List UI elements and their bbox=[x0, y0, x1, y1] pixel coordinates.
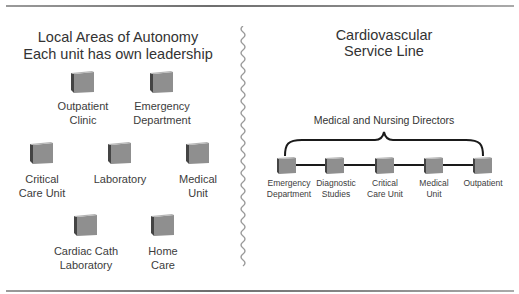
cube-icon bbox=[472, 156, 494, 175]
service-unit-label-critical-care-unit: CriticalCare Unit bbox=[367, 178, 403, 200]
cube-icon bbox=[185, 141, 211, 165]
bottom-border-line bbox=[6, 290, 514, 292]
right-title-line2: Service Line bbox=[344, 43, 424, 60]
unit-label-medical-unit: MedicalUnit bbox=[179, 172, 217, 200]
cube-icon bbox=[149, 70, 175, 94]
cube-icon bbox=[374, 156, 396, 175]
unit-label-emergency-department: EmergencyDepartment bbox=[133, 99, 190, 127]
unit-label-laboratory: Laboratory bbox=[94, 172, 147, 186]
cube-icon bbox=[70, 70, 96, 94]
cube-icon bbox=[423, 156, 445, 175]
service-unit-label-outpatient: Outpatient bbox=[463, 178, 502, 189]
right-title-line1: Cardiovascular bbox=[336, 27, 433, 44]
cube-icon bbox=[107, 141, 133, 165]
left-title-line2: Each unit has own leadership bbox=[23, 46, 212, 63]
cube-icon bbox=[29, 141, 55, 165]
unit-label-outpatient-clinic: OutpatientClinic bbox=[58, 99, 109, 127]
brace-label: Medical and Nursing Directors bbox=[314, 114, 455, 127]
cube-icon bbox=[276, 156, 298, 175]
unit-label-home-care: HomeCare bbox=[148, 244, 177, 272]
service-unit-label-diagnostic-studies: DiagnosticStudies bbox=[316, 178, 356, 200]
cube-icon bbox=[324, 156, 346, 175]
left-title-line1: Local Areas of Autonomy bbox=[38, 29, 198, 46]
unit-label-critical-care-unit: CriticalCare Unit bbox=[19, 172, 65, 200]
cube-icon bbox=[73, 213, 99, 237]
top-border-line bbox=[6, 5, 514, 7]
cube-icon bbox=[150, 213, 176, 237]
service-unit-label-emergency-department: EmergencyDepartment bbox=[267, 178, 311, 200]
service-unit-label-medical-unit: MedicalUnit bbox=[419, 178, 448, 200]
unit-label-cardiac-cath-laboratory: Cardiac CathLaboratory bbox=[54, 244, 118, 272]
wavy-divider bbox=[236, 26, 250, 268]
